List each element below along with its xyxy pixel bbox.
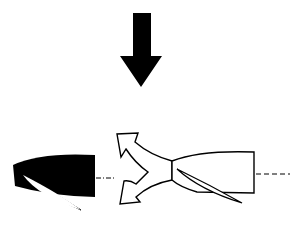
down-arrow-icon [120, 13, 162, 87]
thrust-reverser-diagram [0, 0, 296, 230]
reverse-flow-arrow-icon [117, 133, 172, 204]
